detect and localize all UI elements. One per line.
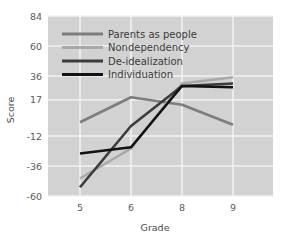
y-tick-label: 60	[30, 41, 42, 52]
x-axis-tick-labels: 5689	[77, 202, 236, 213]
legend-label: Parents as people	[108, 29, 197, 40]
x-tick-label: 5	[77, 202, 83, 213]
x-tick-label: 6	[128, 202, 134, 213]
y-tick-label: -60	[26, 191, 42, 202]
y-axis-title: Score	[5, 97, 16, 124]
legend-label: Individuation	[108, 69, 173, 80]
y-tick-label: -12	[26, 131, 42, 142]
x-tick-label: 9	[230, 202, 236, 213]
y-tick-label: 36	[30, 71, 42, 82]
y-tick-label: 17	[30, 94, 42, 105]
line-chart: 84603617-12-36-60 5689 Grade Score Paren…	[0, 0, 284, 237]
x-tick-label: 8	[179, 202, 185, 213]
x-axis-title: Grade	[141, 222, 170, 233]
legend-label: De-idealization	[108, 56, 183, 67]
y-tick-label: -36	[26, 161, 42, 172]
chart-figure: 84603617-12-36-60 5689 Grade Score Paren…	[0, 0, 284, 237]
y-tick-label: 84	[30, 11, 42, 22]
y-axis-tick-labels: 84603617-12-36-60	[26, 11, 42, 202]
legend-label: Nondependency	[108, 42, 190, 53]
